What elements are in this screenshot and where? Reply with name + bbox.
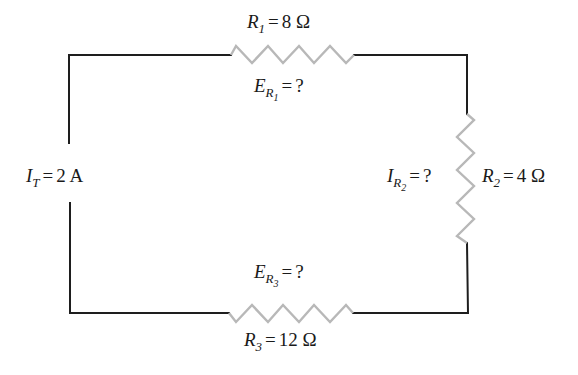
r2-value: 4 Ω — [517, 165, 545, 186]
i-r2-equals: = — [409, 165, 420, 186]
i-r2-subsubscript: 2 — [401, 182, 406, 193]
it-subscript: T — [32, 175, 39, 190]
r3-symbol: R — [244, 329, 256, 350]
r2-label: R2=4 Ω — [482, 166, 545, 185]
e-r1-symbol: E — [254, 75, 266, 96]
e-r1-subscript: R — [266, 85, 274, 100]
e-r3-subscript: R — [266, 271, 274, 286]
r1-subscript: 1 — [259, 21, 266, 36]
e-r1-equals: = — [282, 75, 293, 96]
r3-label: R3=12 Ω — [244, 330, 317, 349]
r1-symbol: R — [247, 11, 259, 32]
e-r3-symbol: E — [254, 261, 266, 282]
r2-subscript: 2 — [494, 175, 501, 190]
r3-value: 12 Ω — [279, 329, 317, 350]
i-r2-value: ? — [423, 165, 431, 186]
r3-equals: = — [265, 329, 276, 350]
i-r2-label: IR2=? — [387, 166, 431, 185]
resistor-r3-icon — [229, 305, 353, 322]
r1-label: R1=8 Ω — [247, 12, 310, 31]
source-current-label: IT=2 A — [26, 166, 83, 185]
it-value: 2 A — [56, 165, 83, 186]
r2-symbol: R — [482, 165, 494, 186]
e-r3-label: ER3=? — [254, 262, 304, 281]
wire-right-bottom — [353, 243, 468, 313]
resistor-r2-icon — [457, 114, 474, 243]
circuit-diagram — [0, 0, 578, 375]
wire-top-right — [354, 55, 467, 114]
r1-value: 8 Ω — [282, 11, 310, 32]
r3-subscript: 3 — [256, 339, 263, 354]
e-r1-value: ? — [295, 75, 303, 96]
e-r3-subsubscript: 3 — [274, 278, 279, 289]
r2-equals: = — [503, 165, 514, 186]
e-r1-subsubscript: 1 — [274, 92, 279, 103]
wire-left-top — [69, 55, 231, 143]
resistor-r1-icon — [231, 46, 354, 63]
r1-equals: = — [268, 11, 279, 32]
it-equals: = — [43, 165, 54, 186]
e-r3-value: ? — [295, 261, 303, 282]
e-r1-label: ER1=? — [254, 76, 304, 95]
e-r3-equals: = — [282, 261, 293, 282]
wire-left-bottom — [70, 203, 229, 313]
